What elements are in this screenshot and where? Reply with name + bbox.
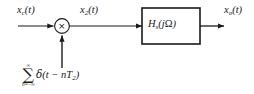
block-diagram-figure: xc(t) x2(t) xo(t) × Hs(jΩ) ∞ ∑ n=−∞ δ(t … (0, 0, 254, 94)
intermediate-signal-label: x2(t) (80, 5, 98, 17)
impulse-body: t − nT (46, 69, 72, 80)
summation-operator: ∞ ∑ n=−∞ (22, 63, 35, 87)
multiply-icon: × (58, 22, 66, 31)
filter-arg-omega: Ω (165, 18, 173, 29)
filter-base: H (148, 18, 156, 29)
intermediate-signal-arg: (t) (88, 4, 98, 15)
impulse-train-expression: ∞ ∑ n=−∞ δ(t − nT2) (22, 63, 79, 87)
output-signal-label: xo(t) (224, 5, 242, 17)
output-signal-arg: (t) (232, 4, 242, 15)
input-signal-arg: (t) (25, 4, 35, 15)
input-signal-label: xc(t) (17, 5, 35, 17)
impulse-term: δ(t − nT2) (36, 68, 79, 82)
impulse-paren-close: ) (76, 69, 80, 80)
filter-arg-close: ) (173, 18, 177, 29)
filter-block-label: Hs(jΩ) (148, 19, 176, 31)
summation-lower-limit: n=−∞ (22, 82, 35, 87)
sigma-icon: ∑ (23, 68, 34, 82)
